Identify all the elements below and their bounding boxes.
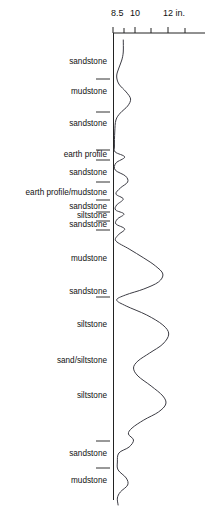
scale-axis — [113, 27, 205, 33]
log-plot-svg — [0, 0, 213, 514]
caliper-log-curve — [114, 40, 169, 505]
bed-boundary-ticks — [96, 79, 110, 468]
stratigraphic-log-figure: 8.5 10 12 in. sandstone mudstone sandsto… — [0, 0, 213, 514]
